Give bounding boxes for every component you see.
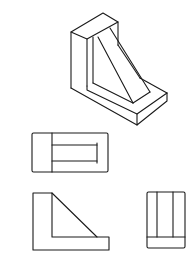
drawing-svg (0, 0, 196, 262)
front-view (33, 193, 109, 250)
top-view (32, 133, 108, 172)
technical-drawing (0, 0, 196, 262)
isometric-view (71, 13, 167, 125)
side-view (147, 192, 185, 248)
